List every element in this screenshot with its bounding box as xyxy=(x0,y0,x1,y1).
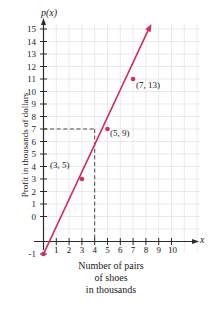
x-axis-title-line-2: of shoes xyxy=(36,272,186,284)
point-label-5-9: (5, 9) xyxy=(110,128,130,138)
x-tick-label-10: 10 xyxy=(164,245,182,255)
y-axis-variable-name: p(x) xyxy=(41,7,57,18)
grid-lines xyxy=(44,24,201,252)
y-axis xyxy=(41,18,46,250)
data-point-7-13 xyxy=(131,77,136,82)
y-tick-label-15: 15 xyxy=(20,24,36,34)
x-axis-variable-name: x xyxy=(200,234,204,245)
x-axis-title-line-1: Number of pairs xyxy=(36,260,186,272)
y-tick-label-neg1: -1 xyxy=(16,249,36,259)
x-axis-title: Number of pairs of shoes in thousands xyxy=(36,260,186,295)
profit-line-chart: p(x) x 15 14 13 12 11 10 9 8 7 6 5 4 3 2… xyxy=(0,0,213,309)
profit-line-series xyxy=(44,24,152,254)
point-label-3-5: (3, 5) xyxy=(50,160,70,170)
data-point-3-5 xyxy=(80,177,85,182)
x-axis-title-line-3: in thousands xyxy=(36,284,186,296)
x-axis xyxy=(34,239,199,244)
y-tick-label-13: 13 xyxy=(20,49,36,59)
point-label-7-13: (7, 13) xyxy=(136,80,160,90)
data-point-origin xyxy=(41,252,46,257)
y-axis-title: Profit in thousands of dollars xyxy=(20,65,30,225)
y-tick-label-14: 14 xyxy=(20,37,36,47)
